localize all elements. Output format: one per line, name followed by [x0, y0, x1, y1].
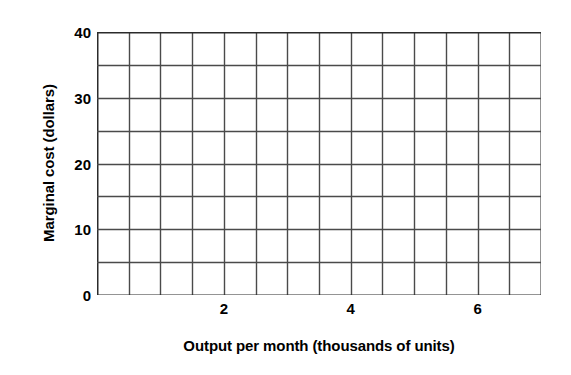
y-tick-label: 10	[58, 222, 91, 237]
x-tick-label: 2	[204, 301, 244, 318]
x-axis-tick-labels: 246	[97, 301, 541, 323]
y-tick-label: 30	[58, 91, 91, 106]
x-tick-label: 4	[331, 301, 371, 318]
plot-area	[97, 32, 541, 295]
y-tick-label: 40	[58, 25, 91, 40]
y-axis-tick-labels: 010203040	[58, 32, 91, 295]
y-tick-label: 20	[58, 157, 91, 172]
y-axis-title: Marginal cost (dollars)	[38, 18, 60, 308]
chart-figure: Marginal cost (dollars) 010203040 246 Ou…	[0, 0, 571, 375]
x-tick-label: 6	[458, 301, 498, 318]
y-tick-label: 0	[58, 288, 91, 303]
grid-lines	[97, 32, 541, 295]
x-axis-title: Output per month (thousands of units)	[97, 337, 541, 354]
